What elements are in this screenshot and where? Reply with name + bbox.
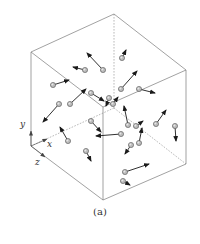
particle-highlight [66,139,68,141]
particle [83,148,91,161]
particles [43,50,178,185]
particle-highlight [137,87,139,89]
particle-highlight [173,124,175,126]
particle [124,106,131,128]
particle-highlight [137,141,139,143]
cube-edge [114,14,186,70]
z-axis-label: z [34,157,40,167]
particle-highlight [154,122,156,124]
particle [122,164,149,175]
particle-highlight [101,68,103,70]
particle-highlight [134,124,136,126]
cube-edge [31,52,103,107]
particle [133,121,143,129]
particle-highlight [111,102,113,104]
particle-highlight [89,119,91,121]
velocity-arrow-icon [96,134,121,136]
z-axis-arrow [31,146,45,157]
particle-highlight [123,170,125,172]
cube-edge [103,70,186,107]
velocity-arrow-icon [125,164,149,172]
particle [73,67,88,73]
particle [88,118,101,132]
cube-visible-edges [31,14,186,200]
velocity-arrow-icon [121,71,137,89]
particle [136,128,142,146]
particle [118,71,137,92]
particle [87,53,106,73]
particle-highlight [107,96,109,98]
cube-edge [31,14,114,52]
x-axis-arrow [31,139,47,146]
coordinate-axes: y x z [19,119,52,167]
particle [60,127,71,144]
particle [50,80,69,88]
hidden-edge [114,108,186,164]
particle [88,90,104,101]
particle-highlight [51,83,53,85]
particle [120,178,130,185]
particle [67,89,86,107]
particle-highlight [84,149,86,151]
velocity-arrow-icon [87,53,103,70]
particle-highlight [126,123,128,125]
velocity-arrow-icon [70,89,86,104]
x-axis-label: x [47,139,52,149]
particle-highlight [120,56,122,58]
particle [172,123,177,141]
particle-highlight [121,179,123,181]
particle-highlight [57,102,59,104]
particle-highlight [89,91,91,93]
velocity-arrow-icon [124,106,128,125]
cube-edge [31,146,103,200]
particle-highlight [83,68,85,70]
particle [136,86,155,93]
particle-highlight [119,132,121,134]
particle [119,50,126,61]
cube-edge [103,164,186,200]
particle [153,110,166,127]
particle-highlight [68,102,70,104]
particle-highlight [129,143,131,145]
particle [96,131,124,136]
particle [125,142,134,154]
particle-highlight [119,87,121,89]
figure-caption: (a) [0,206,200,217]
y-axis-label: y [19,119,26,129]
particle [43,101,62,122]
cube-hidden-edges [31,14,186,164]
velocity-arrow-icon [43,104,59,122]
